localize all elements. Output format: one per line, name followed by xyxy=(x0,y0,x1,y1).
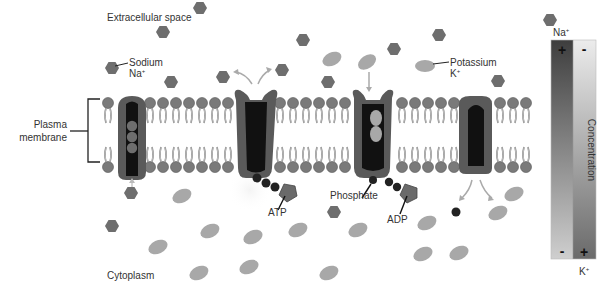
sodium-low-sign: - xyxy=(560,243,565,259)
svg-text:Na+: Na+ xyxy=(129,68,146,79)
potassium-label: Potassium xyxy=(450,57,497,68)
extracellular-label: Extracellular space xyxy=(107,12,192,23)
extracellular-ions xyxy=(156,2,557,88)
pump-stage-1 xyxy=(118,96,146,194)
svg-text:Na+: Na+ xyxy=(553,27,570,38)
membrane-label-line1: Plasma xyxy=(34,119,68,130)
sodium-high-sign: + xyxy=(558,42,566,58)
concentration-axis-label: Concentration xyxy=(586,119,597,181)
atp-label: ATP xyxy=(268,207,287,218)
potassium-high-sign: + xyxy=(580,244,588,260)
potassium-legend: Potassium K+ xyxy=(415,57,497,79)
svg-text:K+: K+ xyxy=(450,68,461,79)
membrane-bracket xyxy=(70,99,100,162)
membrane-label-line2: membrane xyxy=(19,132,67,143)
phosphate-label: Phosphate xyxy=(330,190,378,201)
sodium-legend: Sodium Na+ xyxy=(105,57,163,79)
sodium-potassium-pump-diagram: Plasma membrane Extracellular space Cyto… xyxy=(0,0,606,290)
sodium-ion-icon xyxy=(105,62,119,74)
cytoplasm-label: Cytoplasm xyxy=(107,270,154,281)
sodium-label: Sodium xyxy=(129,57,163,68)
gradient-top-ion: Na xyxy=(553,27,566,38)
pump-stage-2 xyxy=(228,67,297,212)
sodium-symbol: Na xyxy=(129,68,142,79)
potassium-low-sign: - xyxy=(582,41,587,57)
adp-label: ADP xyxy=(387,214,408,225)
concentration-gradient-bar: + - - + Concentration Na+ K+ xyxy=(551,27,597,277)
svg-text:K+: K+ xyxy=(579,266,590,277)
sodium-gradient xyxy=(551,40,573,259)
pump-stage-4 xyxy=(452,96,495,217)
